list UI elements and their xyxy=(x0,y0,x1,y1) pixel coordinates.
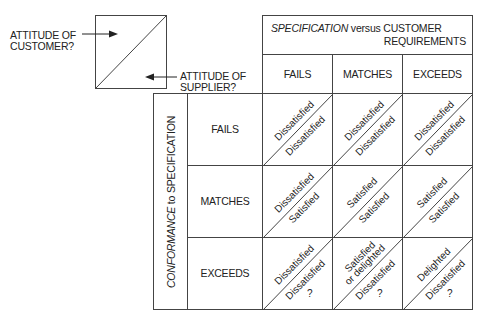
customer-attitude-label: ATTITUDE OF CUSTOMER? xyxy=(10,30,76,52)
supplier-uncertain-mark: ? xyxy=(307,289,313,299)
supplier-uncertain-mark: ? xyxy=(377,289,383,299)
row-header-exceeds: EXCEEDS xyxy=(187,237,263,310)
matrix-cell: Satisfied or delighted Dissatisfied ? xyxy=(332,237,403,310)
spec-line2: REQUIREMENTS xyxy=(384,36,466,47)
matrix-cell: Dissatisfied Dissatisfied xyxy=(262,93,333,166)
arrow-left-icon xyxy=(145,73,177,81)
matrix-cell: Dissatisfied Dissatisfied ? xyxy=(262,237,333,310)
matrix-cell: Delighted Dissatisfied ? xyxy=(402,237,473,310)
spec-header: SPECIFICATION versus CUSTOMER REQUIREMEN… xyxy=(262,15,473,55)
col-header-matches: MATCHES xyxy=(332,54,403,94)
col-header-exceeds: EXCEEDS xyxy=(402,54,473,94)
col-header-fails: FAILS xyxy=(262,54,333,94)
row-header-fails: FAILS xyxy=(187,93,263,166)
matrix-cell: Satisfied Satisfied xyxy=(332,165,403,238)
supplier-attitude-label: ATTITUDE OF SUPPLIER? xyxy=(180,71,246,93)
spec-italic: SPECIFICATION xyxy=(271,22,348,34)
matrix-cell: Dissatisfied Dissatisfied xyxy=(332,93,403,166)
row-header-matches: MATCHES xyxy=(187,165,263,238)
supplier-uncertain-mark: ? xyxy=(447,289,453,299)
conformance-side-label: CONFORMANCE to SPECIFICATION xyxy=(153,93,188,310)
matrix-cell: Dissatisfied Dissatisfied xyxy=(402,93,473,166)
arrow-right-icon xyxy=(82,30,118,38)
matrix-cell: Satisfied Satisfied xyxy=(402,165,473,238)
matrix-cell: Dissatisfied Satisfied xyxy=(262,165,333,238)
